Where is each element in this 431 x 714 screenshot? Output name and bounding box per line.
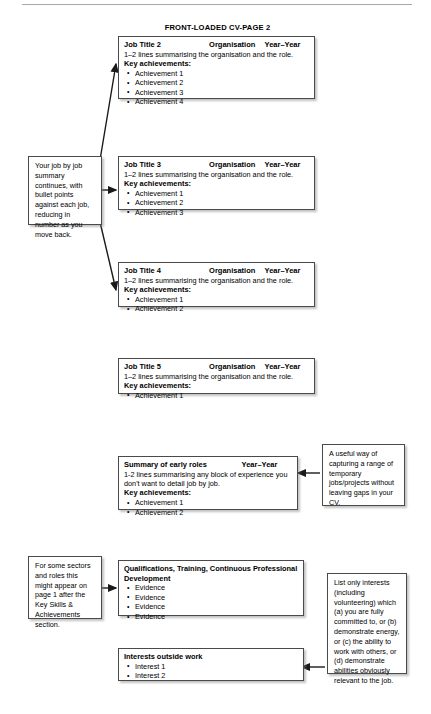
list-item: Evidence xyxy=(124,583,298,593)
list-item: Achievement 1 xyxy=(124,189,309,199)
achievement-list: Achievement 1 Achievement 2 Achievement … xyxy=(124,69,309,107)
job-title: Job Title 4 xyxy=(124,266,209,276)
cv-entry-qualifications: Qualifications, Training, Continuous Pro… xyxy=(118,560,304,616)
interest-list: Interest 1 Interest 2 xyxy=(124,662,298,681)
early-roles-years: Year–Year xyxy=(242,460,292,470)
cv-entry-job-5: Job Title 5 Organisation Year–Year 1–2 l… xyxy=(118,358,315,394)
job-title: Job Title 3 xyxy=(124,160,209,170)
note-job-summary: Your job by job summary continues, with … xyxy=(28,156,102,225)
list-item: Achievement 3 xyxy=(124,88,309,98)
diagram-canvas: FRONT-LOADED CV-PAGE 2 Job Title 2 Organ… xyxy=(0,0,431,714)
note-text: Your job by job summary continues, with … xyxy=(35,161,89,239)
cv-entry-header: Summary of early roles Year–Year xyxy=(124,460,292,470)
job-years: Year–Year xyxy=(265,362,309,372)
key-achievements-label: Key achievements: xyxy=(124,179,309,189)
list-item: Achievement 3 xyxy=(124,208,309,218)
job-organisation: Organisation xyxy=(209,266,265,276)
cv-entry-job-4: Job Title 4 Organisation Year–Year 1–2 l… xyxy=(118,262,315,307)
cv-entry-header: Job Title 5 Organisation Year–Year xyxy=(124,362,309,372)
list-item: Achievement 2 xyxy=(124,304,309,314)
early-roles-title: Summary of early roles xyxy=(124,460,242,470)
list-item: Achievement 1 xyxy=(124,69,309,79)
list-item: Achievement 2 xyxy=(124,78,309,88)
job-years: Year–Year xyxy=(265,160,309,170)
list-item: Evidence xyxy=(124,612,298,622)
cv-entry-early-roles: Summary of early roles Year–Year 1-2 lin… xyxy=(118,456,298,510)
cv-entry-job-3: Job Title 3 Organisation Year–Year 1–2 l… xyxy=(118,156,315,210)
job-summary-line: 1–2 lines summarising the organisation a… xyxy=(124,372,309,381)
page-title: FRONT-LOADED CV-PAGE 2 xyxy=(120,23,315,32)
cv-entry-header: Job Title 3 Organisation Year–Year xyxy=(124,160,309,170)
job-years: Year–Year xyxy=(265,266,309,276)
job-years: Year–Year xyxy=(265,40,309,50)
cv-entry-interests: Interests outside work Interest 1 Intere… xyxy=(118,648,304,681)
note-qualifications-placement: For some sectors and roles this might ap… xyxy=(28,556,102,619)
job-organisation: Organisation xyxy=(209,362,265,372)
interests-title: Interests outside work xyxy=(124,652,298,662)
job-summary-line: 1–2 lines summarising the organisation a… xyxy=(124,50,309,59)
cv-entry-header: Job Title 4 Organisation Year–Year xyxy=(124,266,309,276)
note-text: List only interests (including volunteer… xyxy=(334,578,399,685)
list-item: Evidence xyxy=(124,593,298,603)
note-interests-advice: List only interests (including volunteer… xyxy=(327,573,407,674)
list-item: Interest 2 xyxy=(124,671,298,681)
achievement-list: Achievement 1 Achievement 2 xyxy=(124,295,309,314)
arrow-note-to-job4 xyxy=(100,222,116,290)
list-item: Interest 1 xyxy=(124,662,298,672)
key-achievements-label: Key achievements: xyxy=(124,285,309,295)
achievement-list: Achievement 1 Achievement 2 xyxy=(124,498,292,517)
note-text: A useful way of capturing a range of tem… xyxy=(329,449,394,507)
list-item: Achievement 1 xyxy=(124,498,292,508)
top-divider-rule xyxy=(22,4,412,5)
list-item: Achievement 4 xyxy=(124,97,309,107)
job-title: Job Title 2 xyxy=(124,40,209,50)
job-organisation: Organisation xyxy=(209,40,265,50)
note-text: For some sectors and roles this might ap… xyxy=(35,561,91,629)
job-organisation: Organisation xyxy=(209,160,265,170)
list-item: Evidence xyxy=(124,602,298,612)
key-achievements-label: Key achievements: xyxy=(124,59,309,69)
arrow-note-to-job2 xyxy=(100,64,116,160)
list-item: Achievement 1 xyxy=(124,295,309,305)
evidence-list: Evidence Evidence Evidence Evidence xyxy=(124,583,298,621)
list-item: Achievement 2 xyxy=(124,198,309,208)
cv-entry-header: Job Title 2 Organisation Year–Year xyxy=(124,40,309,50)
note-early-roles: A useful way of capturing a range of tem… xyxy=(322,444,405,506)
achievement-list: Achievement 1 Achievement 2 Achievement … xyxy=(124,189,309,218)
job-summary-line: 1–2 lines summarising the organisation a… xyxy=(124,276,309,285)
list-item: Achievement 2 xyxy=(124,508,292,518)
key-achievements-label: Key achievements: xyxy=(124,381,309,391)
cv-entry-job-2: Job Title 2 Organisation Year–Year 1–2 l… xyxy=(118,36,315,99)
achievement-list: Achievement 1 xyxy=(124,391,309,401)
qualifications-title: Qualifications, Training, Continuous Pro… xyxy=(124,564,298,583)
job-summary-line: 1–2 lines summarising the organisation a… xyxy=(124,170,309,179)
key-achievements-label: Key achievements: xyxy=(124,488,292,498)
list-item: Achievement 1 xyxy=(124,391,309,401)
job-title: Job Title 5 xyxy=(124,362,209,372)
early-roles-summary: 1-2 lines summarising any block of exper… xyxy=(124,470,292,489)
